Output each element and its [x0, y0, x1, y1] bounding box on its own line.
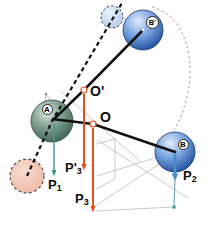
arrowhead-p3 [90, 206, 95, 213]
force-p2-sub: 2 [192, 174, 197, 184]
force-p3-sub: 3 [84, 197, 89, 207]
force-p1-label: P1 [48, 178, 62, 193]
point-o-label: O [100, 110, 111, 124]
construction-plane-edge [96, 179, 115, 189]
force-arrow-p3 [90, 128, 95, 213]
sphere-b-center-dot [174, 151, 177, 154]
drop-line-b [174, 180, 175, 205]
pivot-marker-o [90, 121, 96, 127]
sphere-b-label-text: B [180, 140, 186, 149]
drop-line-end-dot [172, 205, 175, 208]
sphere-b-prime-label: B' [146, 16, 159, 29]
pin-dot [45, 93, 47, 95]
sphere-bprime-center-dot [142, 29, 145, 32]
dashed-axis-line [27, 3, 122, 176]
force-p2-label: P2 [183, 169, 197, 184]
force-p1-main: P [48, 177, 57, 192]
force-p3-label: P3 [75, 192, 89, 207]
point-o-prime-label: O' [90, 84, 104, 98]
pivot-marker-o-prime [81, 87, 87, 93]
force-p3-prime-main: P' [65, 160, 77, 175]
sphere-a-label-text: A [44, 105, 50, 114]
construction-line [96, 207, 173, 211]
force-p3-prime-label: P'3 [65, 161, 82, 176]
ghost-circle-blue [101, 6, 123, 28]
force-p1-sub: 1 [57, 183, 62, 193]
lever-diagram: A B' B O' O P1 P2 P'3 P3 [0, 0, 210, 228]
arrowhead-p2 [172, 174, 179, 181]
force-p2-main: P [183, 168, 192, 183]
sphere-a-center-dot [51, 120, 53, 122]
force-arrow-p3-prime [81, 94, 86, 171]
sphere-b-label: B [178, 139, 189, 150]
sphere-b-prime-label-text: B' [149, 18, 156, 27]
arrowhead-p3-prime [81, 164, 86, 171]
force-p3-prime-sub: 3 [77, 166, 82, 176]
sphere-a-label: A [42, 104, 53, 115]
force-p3-main: P [75, 191, 84, 206]
arrowhead-p1 [52, 170, 57, 177]
